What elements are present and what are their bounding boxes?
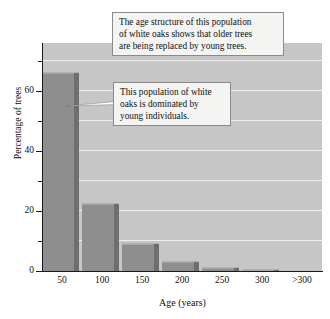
x-axis-tick-label: >300 — [282, 276, 322, 286]
bar-front-face — [162, 262, 194, 271]
x-axis-tick-label: 250 — [202, 276, 242, 286]
callout-age-structure-line-1: The age structure of this population — [119, 16, 278, 28]
bar-side-face — [154, 244, 159, 271]
y-axis-tick-minor — [38, 121, 42, 122]
bar — [122, 244, 159, 271]
bar-side-face — [114, 204, 119, 272]
callout-young-dominated: This population of white oaks is dominat… — [113, 82, 231, 126]
x-axis-tick-label: 50 — [42, 276, 82, 286]
bar — [162, 262, 199, 271]
x-axis-tick-label: 100 — [82, 276, 122, 286]
bar-side-face — [74, 73, 79, 271]
y-axis-tick-minor — [38, 61, 42, 62]
bar-chart-figure: 0204060 50100150200250300>300 Percentage… — [0, 0, 330, 319]
x-axis-tick-label: 150 — [122, 276, 162, 286]
x-axis-tick-label: 300 — [242, 276, 282, 286]
gridline — [42, 150, 322, 151]
bar-front-face — [122, 244, 154, 271]
bar-front-face — [42, 73, 74, 271]
callout-age-structure-line-3: are being replaced by young trees. — [119, 40, 278, 52]
bar — [82, 204, 119, 272]
y-axis-tick-major — [36, 91, 42, 92]
callout-age-structure: The age structure of this population of … — [112, 12, 284, 56]
gridline — [42, 60, 322, 61]
y-axis-tick-major — [36, 211, 42, 212]
callout-young-dominated-line-1: This population of white — [120, 86, 225, 98]
y-axis-tick-minor — [38, 181, 42, 182]
y-axis-line — [42, 43, 43, 272]
plot-area — [42, 43, 322, 271]
y-axis-tick-label: 0 — [6, 266, 34, 276]
x-axis-tick-label: 200 — [162, 276, 202, 286]
y-axis-title: Percentage of trees — [13, 53, 23, 193]
bar — [42, 73, 79, 271]
y-axis-tick-minor — [38, 241, 42, 242]
x-axis-line — [42, 271, 323, 272]
callout-age-structure-line-2: of white oaks shows that older trees — [119, 28, 278, 40]
y-axis-tick-label: 20 — [6, 206, 34, 216]
callout-young-dominated-line-3: young individuals. — [120, 110, 225, 122]
x-axis-title: Age (years) — [42, 297, 323, 308]
y-axis-tick-major — [36, 151, 42, 152]
bar-side-face — [194, 262, 199, 271]
y-axis-tick-major — [36, 271, 42, 272]
bar-front-face — [82, 204, 114, 272]
gridline — [42, 180, 322, 181]
callout-young-dominated-line-2: oaks is dominated by — [120, 98, 225, 110]
